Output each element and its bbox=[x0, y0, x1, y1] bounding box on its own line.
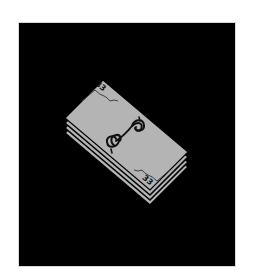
money-stack-icon: 33 33 bbox=[0, 0, 254, 279]
